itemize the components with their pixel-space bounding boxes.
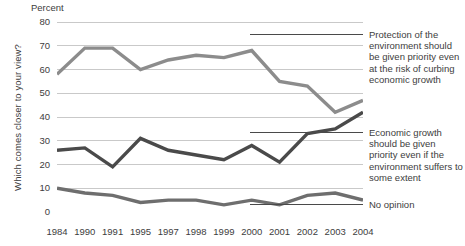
y-axis-tick-label: 30 [0, 136, 50, 146]
series-lines [57, 22, 363, 212]
annotation-no-opinion: No opinion [369, 199, 465, 210]
annotation-economy: Economic growth should be given priority… [369, 127, 465, 183]
y-axis-tick-label: 0 [0, 207, 50, 217]
x-axis-tick-label: 2004 [346, 227, 380, 237]
y-axis-tick-label: 60 [0, 65, 50, 75]
annotation-environment: Protection of the environment should be … [369, 29, 465, 85]
series-line [57, 188, 363, 205]
y-axis-tick-label: 50 [0, 88, 50, 98]
y-axis-tick-label: 10 [0, 183, 50, 193]
y-axis-tick-label: 40 [0, 112, 50, 122]
y-axis-unit-label: Percent [31, 2, 64, 13]
series-line [57, 48, 363, 112]
plot-area [57, 22, 363, 212]
y-axis-tick-label: 80 [0, 17, 50, 27]
y-axis-tick-label: 70 [0, 41, 50, 51]
y-axis-tick-label: 20 [0, 160, 50, 170]
series-line [57, 112, 363, 167]
